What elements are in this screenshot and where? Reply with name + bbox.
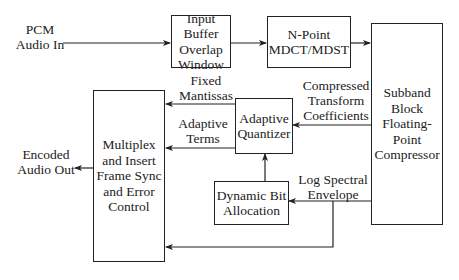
input-buffer-block: Input Buffer Overlap Window: [171, 15, 231, 68]
fixed-mantissas-label: Fixed Mantissas: [176, 73, 236, 103]
multiplex-block: Multiplex and Insert Frame Sync and Erro…: [93, 90, 165, 262]
compressed-coefficients-label: Compressed Transform Coefficients: [300, 78, 372, 123]
subband-compressor-label: Subband Block Floating- Point Compressor: [374, 85, 439, 163]
adaptive-quantizer-label: Adaptive Quantizer: [237, 111, 290, 142]
multiplex-label: Multiplex and Insert Frame Sync and Erro…: [97, 137, 162, 215]
adaptive-quantizer-block: Adaptive Quantizer: [235, 98, 293, 154]
dynamic-bit-allocation-label: Dynamic Bit Allocation: [217, 188, 286, 219]
subband-compressor-block: Subband Block Floating- Point Compressor: [371, 23, 443, 225]
log-spectral-envelope-label: Log Spectral Envelope: [295, 172, 371, 202]
pcm-audio-in-label: PCM Audio In: [14, 22, 66, 52]
mdct-block: N-Point MDCT/MDST: [267, 16, 351, 68]
encoded-audio-out-label: Encoded Audio Out: [16, 147, 76, 177]
adaptive-terms-label: Adaptive Terms: [175, 116, 231, 146]
mdct-label: N-Point MDCT/MDST: [269, 27, 349, 58]
input-buffer-label: Input Buffer Overlap Window: [172, 11, 230, 73]
dynamic-bit-allocation-block: Dynamic Bit Allocation: [214, 181, 289, 225]
